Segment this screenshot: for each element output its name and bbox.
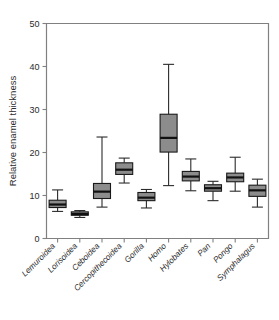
plot-frame — [47, 24, 269, 239]
y-tick-label: 10 — [29, 191, 39, 201]
box-plot-series — [49, 64, 266, 217]
box-plot-item — [71, 211, 88, 218]
y-axis-ticks: 01020304050 — [29, 19, 46, 244]
x-axis-category-label: Gorilla — [123, 241, 146, 264]
y-tick-label: 0 — [34, 234, 39, 244]
box-plot-item — [94, 137, 111, 207]
box-plot-item — [160, 64, 177, 185]
box-plot-item — [227, 157, 244, 191]
y-axis-title: Relative enamel thickness — [7, 76, 18, 187]
x-axis-category-label: Pan — [196, 241, 213, 258]
x-axis-category-labels: LemuroideaLorisoideaCeboideaCercopitheco… — [20, 241, 257, 293]
y-tick-label: 40 — [29, 62, 39, 72]
box-plot-item — [205, 181, 222, 200]
box-plot-chart: 01020304050 Relative enamel thickness Le… — [0, 0, 279, 320]
box-plot-item — [182, 159, 199, 191]
axis-frame-path — [47, 24, 269, 239]
box-body — [160, 114, 177, 152]
y-tick-label: 30 — [29, 105, 39, 115]
box-plot-item — [249, 179, 266, 207]
box-plot-item — [116, 158, 133, 183]
y-tick-label: 50 — [29, 19, 39, 29]
y-tick-label: 20 — [29, 148, 39, 158]
box-plot-item — [138, 189, 155, 207]
box-plot-item — [49, 190, 66, 212]
figure-container: 01020304050 Relative enamel thickness Le… — [0, 0, 279, 320]
